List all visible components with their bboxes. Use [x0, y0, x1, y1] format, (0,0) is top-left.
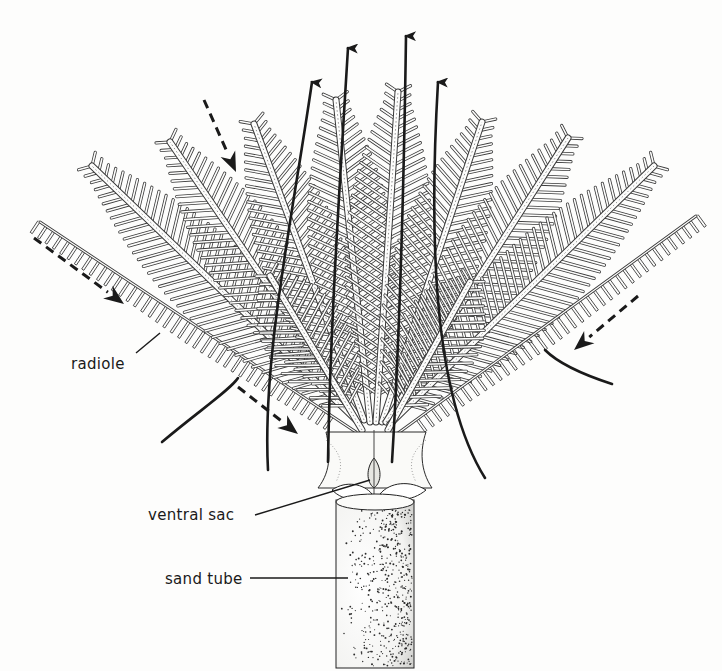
- sand-tube-label: sand tube: [165, 572, 243, 587]
- inhalant-arrow-top: [204, 100, 236, 172]
- worm-illustration: [0, 0, 722, 671]
- arrowhead-icon: [221, 150, 236, 172]
- arrowhead-icon: [277, 415, 298, 434]
- radiole-label: radiole: [71, 357, 125, 372]
- arrowhead-icon: [103, 286, 124, 304]
- radiole-leader: [136, 333, 160, 353]
- ventral-sac-label: ventral sac: [148, 508, 234, 523]
- sand-tube: [336, 494, 414, 668]
- radioles-group: [30, 84, 706, 436]
- feather-duster-worm-diagram: radiole ventral sac sand tube: [0, 0, 722, 671]
- exhalant-arrow-left-low: [162, 378, 238, 442]
- exhalant-arrow-right-low: [545, 350, 612, 384]
- inhalant-arrow-right: [574, 296, 638, 350]
